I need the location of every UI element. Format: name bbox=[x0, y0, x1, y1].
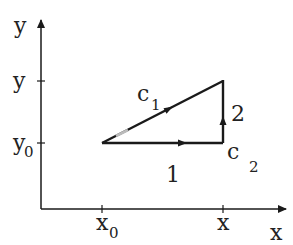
x-tick-label-x: x bbox=[217, 210, 230, 235]
segment-1-label: 1 bbox=[166, 162, 180, 187]
c2-label: c bbox=[227, 139, 239, 164]
y-tick-label-y0-sub: 0 bbox=[24, 143, 34, 161]
line-integral-diagram: y x y y 0 x 0 x c 1 c 2 1 2 bbox=[0, 0, 293, 245]
c2-label-sub: 2 bbox=[249, 158, 259, 176]
path-c1-dash-highlight bbox=[116, 130, 128, 136]
x-tick-label-x0-sub: 0 bbox=[109, 224, 119, 242]
segment-2-label: 2 bbox=[231, 101, 245, 126]
x-tick-label-x0: x bbox=[96, 210, 109, 235]
segment-2-arrow-icon bbox=[220, 116, 227, 125]
y-tick-label-y: y bbox=[12, 68, 26, 93]
c1-label-sub: 1 bbox=[151, 96, 161, 114]
y-axis-label: y bbox=[13, 13, 27, 38]
x-axis-label: x bbox=[270, 220, 283, 245]
c1-arrow-icon bbox=[164, 107, 174, 114]
c1-label: c bbox=[137, 81, 149, 106]
segment-1-arrow-icon bbox=[178, 140, 187, 147]
